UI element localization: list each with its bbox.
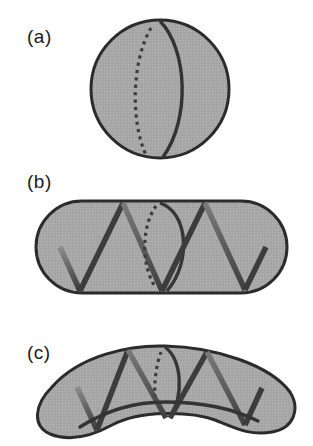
sphere-body [91,20,229,158]
diagram-canvas [0,0,313,446]
panel-a-sphere [91,20,229,158]
panel-c-curved-rod [37,346,294,438]
curved-rod-body [37,346,294,438]
panel-b-capsule [36,201,287,293]
